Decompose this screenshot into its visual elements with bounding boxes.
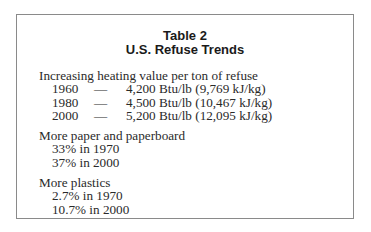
heating-value-heading: Increasing heating value per ton of refu… — [39, 69, 272, 82]
table-box: Table 2 U.S. Refuse Trends Increasing he… — [16, 14, 354, 219]
table-title: Table 2 — [17, 29, 353, 43]
dash: — — [94, 109, 126, 122]
plastics-section: More plastics 2.7% in 1970 10.7% in 2000 — [39, 176, 129, 216]
dash: — — [94, 96, 126, 109]
heating-row-2000: 2000—5,200 Btu/lb (12,095 kJ/kg) — [39, 109, 272, 122]
plastics-item-1970: 2.7% in 1970 — [39, 189, 129, 202]
paper-item-2000: 37% in 2000 — [39, 156, 185, 169]
heating-row-1960: 1960—4,200 Btu/lb (9,769 kJ/kg) — [39, 82, 272, 95]
table-subtitle: U.S. Refuse Trends — [17, 43, 353, 57]
year: 1960 — [52, 82, 94, 95]
paper-item-1970: 33% in 1970 — [39, 142, 185, 155]
heating-value: 4,500 Btu/lb (10,467 kJ/kg) — [126, 96, 272, 109]
paper-heading: More paper and paperboard — [39, 129, 185, 142]
heating-value-section: Increasing heating value per ton of refu… — [39, 69, 272, 122]
heating-value: 4,200 Btu/lb (9,769 kJ/kg) — [126, 82, 266, 95]
heating-value: 5,200 Btu/lb (12,095 kJ/kg) — [126, 109, 272, 122]
paper-section: More paper and paperboard 33% in 1970 37… — [39, 129, 185, 169]
heating-row-1980: 1980—4,500 Btu/lb (10,467 kJ/kg) — [39, 96, 272, 109]
year: 1980 — [52, 96, 94, 109]
year: 2000 — [52, 109, 94, 122]
plastics-heading: More plastics — [39, 176, 129, 189]
dash: — — [94, 82, 126, 95]
plastics-item-2000: 10.7% in 2000 — [39, 203, 129, 216]
